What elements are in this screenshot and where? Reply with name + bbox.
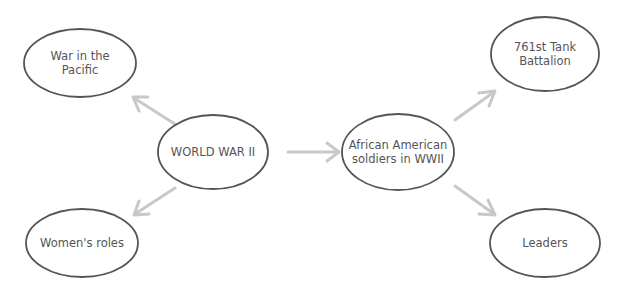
arrow-to-african-american-soldiers (288, 143, 339, 161)
arrow-to-761st-tank-battalion (455, 91, 495, 120)
node-womens-roles-oval (26, 209, 138, 277)
node-war-in-pacific-oval (24, 25, 136, 97)
concept-map (0, 0, 624, 299)
arrow-to-womens-roles (134, 188, 175, 215)
node-world-war-ii-oval (158, 115, 268, 189)
arrow-to-war-in-pacific (133, 97, 178, 126)
node-leaders-oval (490, 209, 600, 277)
node-african-american-soldiers-oval (342, 114, 454, 190)
node-761st-tank-battalion-oval (491, 17, 599, 91)
arrow-to-leaders (455, 186, 495, 215)
